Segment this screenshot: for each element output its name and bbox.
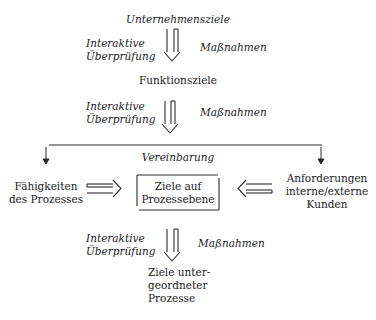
process-level-goals-line1: Ziele auf <box>138 180 218 193</box>
level3-measures-label: Maßnahmen <box>198 237 265 250</box>
level3-review-line1: Interaktive <box>86 232 155 245</box>
level1-measures-label: Maßnahmen <box>200 41 267 54</box>
customer-requirements-line3: Kunden <box>284 198 370 211</box>
right-down-arrow-icon <box>318 147 324 164</box>
down-arrow-1-icon <box>164 29 180 61</box>
process-capabilities-line1: Fähigkeiten <box>8 180 84 193</box>
level3-review-label: Interaktive Überprüfung <box>86 232 155 258</box>
level1-review-label: Interaktive Überprüfung <box>86 37 155 63</box>
functional-goal-label: Funktionsziele <box>128 74 228 87</box>
level1-review-line2: Überprüfung <box>86 50 155 63</box>
right-arrow-icon <box>87 180 121 197</box>
customer-requirements-line2: interne/externe <box>284 185 370 198</box>
subprocess-goals-line3: Prozesse <box>148 292 210 305</box>
subprocess-goals-label: Ziele unter- geordneter Prozesse <box>148 266 210 305</box>
left-arrow-icon <box>238 180 272 197</box>
level2-review-line2: Überprüfung <box>86 113 155 126</box>
level3-review-line2: Überprüfung <box>86 245 155 258</box>
top-goal-label: Unternehmensziele <box>118 13 238 26</box>
process-capabilities-label: Fähigkeiten des Prozesses <box>8 180 84 206</box>
down-arrow-2-icon <box>162 101 178 133</box>
customer-requirements-label: Anforderungen interne/externe Kunden <box>284 172 370 211</box>
customer-requirements-line1: Anforderungen <box>284 172 370 185</box>
process-level-goals-box: Ziele auf Prozessebene <box>138 180 218 206</box>
level1-review-line1: Interaktive <box>86 37 155 50</box>
down-arrow-3-icon <box>164 229 180 261</box>
left-down-arrow-icon <box>43 147 49 164</box>
level2-measures-label: Maßnahmen <box>200 106 267 119</box>
agreement-label: Vereinbarung <box>128 151 228 164</box>
level2-review-line1: Interaktive <box>86 100 155 113</box>
process-capabilities-line2: des Prozesses <box>8 193 84 206</box>
process-level-goals-line2: Prozessebene <box>138 193 218 206</box>
subprocess-goals-line2: geordneter <box>148 279 210 292</box>
level2-review-label: Interaktive Überprüfung <box>86 100 155 126</box>
subprocess-goals-line1: Ziele unter- <box>148 266 210 279</box>
